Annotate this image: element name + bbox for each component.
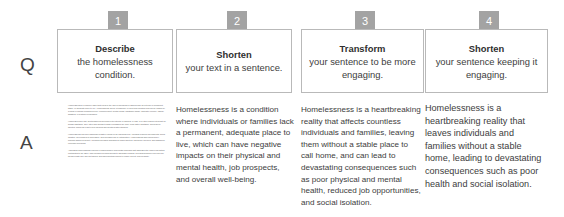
answer-block-1: Homelessness is a complex issue that ref…: [68, 104, 166, 163]
answer-text-2: Homelessness is a condition where indivi…: [176, 104, 294, 185]
question-row-label: Q: [20, 55, 35, 74]
step-badge-2: 2: [227, 11, 247, 31]
question-detail-4: your sentence keeping it engaging.: [430, 55, 543, 81]
question-card-1[interactable]: Describe the homelessness condition.: [57, 29, 173, 93]
question-detail-3: your sentence to be more engaging.: [306, 55, 419, 81]
step-badge-1: 1: [108, 11, 128, 31]
question-verb-1: Describe: [95, 42, 135, 55]
question-detail-2: your text in a sentence.: [186, 61, 283, 74]
prompt-step-column-4: 4 Shorten your sentence keeping it engag…: [425, 0, 548, 217]
question-card-3[interactable]: Transform your sentence to be more engag…: [301, 29, 424, 93]
step-badge-4: 4: [479, 11, 499, 31]
prompt-step-column-2: 2 Shorten your text in a sentence. Homel…: [176, 0, 292, 217]
answer-paragraph: Homeless people may find themselves slee…: [68, 120, 166, 129]
answer-paragraph: Addressing homelessness requires a compr…: [68, 149, 166, 158]
answer-row-label: A: [20, 133, 33, 152]
answer-paragraph: Homelessness can have significant negati…: [68, 133, 166, 145]
question-card-2[interactable]: Shorten your text in a sentence.: [176, 29, 292, 93]
answer-paragraph: Homelessness is a complex issue that ref…: [68, 104, 166, 116]
answer-text-3: Homelessness is a heartbreaking reality …: [301, 104, 421, 208]
answer-block-2: Homelessness is a condition where indivi…: [176, 104, 294, 185]
prompt-chain-figure: Q A 1 Describe the homelessness conditio…: [0, 0, 564, 217]
question-detail-1: the homelessness condition.: [62, 55, 168, 81]
question-verb-2: Shorten: [216, 48, 251, 61]
answer-block-3: Homelessness is a heartbreaking reality …: [301, 104, 421, 208]
question-card-4[interactable]: Shorten your sentence keeping it engagin…: [425, 29, 548, 93]
prompt-step-column-3: 3 Transform your sentence to be more eng…: [301, 0, 424, 217]
question-verb-4: Shorten: [469, 42, 504, 55]
prompt-step-column-1: 1 Describe the homelessness condition. H…: [57, 0, 173, 217]
answer-text-4: Homelessness is a heartbreaking reality …: [425, 102, 543, 190]
step-badge-3: 3: [355, 11, 375, 31]
answer-block-4: Homelessness is a heartbreaking reality …: [425, 102, 543, 190]
question-verb-3: Transform: [340, 42, 386, 55]
